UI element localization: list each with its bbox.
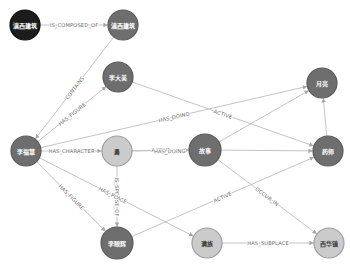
edge-label: CONTAINS — [64, 75, 85, 100]
edge-layer — [35, 25, 326, 243]
graph-node-n2[interactable]: 滇西建筑 — [108, 10, 138, 40]
node-circle[interactable] — [108, 10, 138, 40]
edge-label: HAS_PLACE — [97, 186, 128, 206]
node-circle[interactable] — [101, 227, 133, 259]
node-circle[interactable] — [11, 136, 41, 166]
edge-label: ACTIVE — [212, 190, 232, 203]
graph-node-n6[interactable]: 故事 — [189, 134, 221, 166]
node-circle[interactable] — [189, 134, 221, 166]
graph-node-n3[interactable]: 李大美 — [103, 62, 133, 92]
node-circle[interactable] — [102, 136, 132, 166]
graph-node-n1[interactable]: 滇西建筑 — [10, 10, 40, 40]
graph-node-n5[interactable]: 勇 — [102, 136, 132, 166]
edge-label: HAS_CHARACTER — [48, 148, 95, 155]
node-circle[interactable] — [314, 228, 344, 258]
node-circle[interactable] — [313, 136, 343, 166]
graph-node-n4[interactable]: 李福慧 — [11, 136, 41, 166]
edge-n6-n8[interactable] — [221, 150, 313, 151]
graph-canvas[interactable]: IS_COMPOSED_OFCONTAINSHAS_FIGUREACTIVEHA… — [0, 0, 350, 268]
node-layer: 滇西建筑滇西建筑李大美李福慧勇故事月亮药师李颐辉满族西华镇 — [10, 10, 344, 259]
edge-label: IS_COMPOSED_OF — [50, 22, 98, 29]
node-circle[interactable] — [192, 228, 222, 258]
edge-label: OCCUR_IN — [254, 186, 280, 208]
graph-node-n10[interactable]: 满族 — [192, 228, 222, 258]
graph-node-n7[interactable]: 月亮 — [307, 68, 337, 98]
graph-node-n8[interactable]: 药师 — [313, 136, 343, 166]
graph-node-n11[interactable]: 西华镇 — [314, 228, 344, 258]
graph-node-n9[interactable]: 李颐辉 — [101, 227, 133, 259]
edge-label: HAS_DOING — [154, 148, 186, 155]
edge-label: HAS_FIGURE — [57, 183, 86, 212]
node-circle[interactable] — [10, 10, 40, 40]
edge-label-layer: IS_COMPOSED_OFCONTAINSHAS_FIGUREACTIVEHA… — [48, 22, 288, 247]
edge-label: HAS_SUBPLACE — [247, 240, 289, 247]
edge-n8-n7[interactable] — [323, 98, 326, 136]
node-circle[interactable] — [307, 68, 337, 98]
edge-label: HAS_DOING — [158, 111, 191, 125]
node-circle[interactable] — [103, 62, 133, 92]
edge-label: ACTIVE — [213, 108, 233, 120]
